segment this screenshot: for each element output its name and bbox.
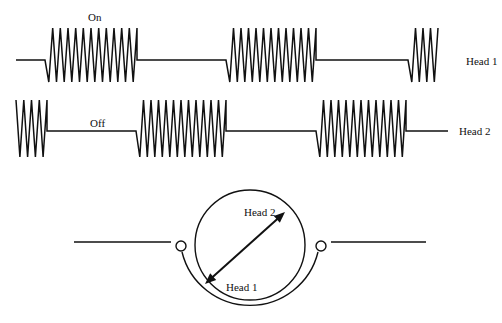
drum-head-1-label: Head 1: [226, 281, 257, 293]
right-guide-roller-icon: [316, 241, 326, 251]
head-1-signal-trace: [16, 28, 438, 82]
drum-head-2-label: Head 2: [244, 206, 275, 218]
on-label: On: [88, 11, 102, 23]
head-1-waveform: On Head 1: [16, 11, 497, 82]
tape-wrap-arc: [182, 252, 318, 305]
double-headed-arrow-icon: [205, 212, 285, 284]
left-guide-roller-icon: [176, 241, 186, 251]
off-label: Off: [90, 117, 105, 129]
head-drum-diagram: Head 2 Head 1: [74, 190, 426, 305]
head-1-row-label: Head 1: [466, 55, 497, 67]
head-2-signal-trace: [16, 100, 448, 157]
helical-scan-diagram: On Head 1 Off Head 2 Head 2 Head 1: [0, 0, 502, 323]
head-2-waveform: Off Head 2: [16, 100, 490, 157]
head-2-row-label: Head 2: [459, 125, 490, 137]
